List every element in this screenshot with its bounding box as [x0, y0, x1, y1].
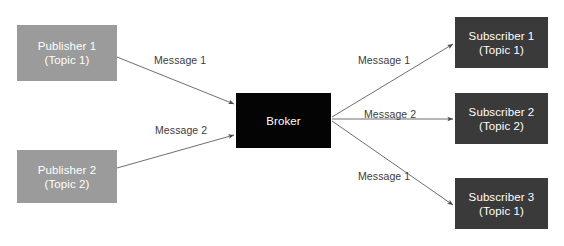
edge-label-publisher1-broker: Message 1	[154, 54, 206, 66]
node-subscriber-2-title: Subscriber 2	[469, 105, 535, 119]
node-subscriber-1-topic: (Topic 1)	[479, 43, 524, 57]
node-publisher-2-topic: (Topic 2)	[45, 177, 90, 191]
node-subscriber-1-title: Subscriber 1	[469, 29, 535, 43]
node-publisher-1-topic: (Topic 1)	[45, 53, 90, 67]
node-publisher-1[interactable]: Publisher 1 (Topic 1)	[17, 25, 117, 81]
node-subscriber-3-title: Subscriber 3	[469, 190, 535, 204]
diagram-canvas: Publisher 1 (Topic 1) Publisher 2 (Topic…	[0, 0, 564, 246]
edge-label-broker-subscriber1: Message 1	[358, 54, 410, 66]
edge-label-broker-subscriber3: Message 1	[358, 170, 410, 182]
node-subscriber-2-topic: (Topic 2)	[479, 119, 524, 133]
edge-label-broker-subscriber2: Message 2	[364, 108, 416, 120]
node-publisher-1-title: Publisher 1	[38, 39, 97, 53]
node-publisher-2-title: Publisher 2	[38, 163, 97, 177]
node-subscriber-3-topic: (Topic 1)	[479, 204, 524, 218]
node-publisher-2[interactable]: Publisher 2 (Topic 2)	[17, 150, 117, 203]
node-broker[interactable]: Broker	[236, 93, 331, 148]
node-subscriber-3[interactable]: Subscriber 3 (Topic 1)	[455, 178, 548, 229]
node-broker-title: Broker	[266, 114, 300, 128]
node-subscriber-2[interactable]: Subscriber 2 (Topic 2)	[455, 93, 548, 144]
edge-broker-to-subscriber3	[332, 121, 453, 205]
node-subscriber-1[interactable]: Subscriber 1 (Topic 1)	[455, 17, 548, 68]
edge-label-publisher2-broker: Message 2	[155, 124, 207, 136]
edge-publisher2-to-broker	[117, 135, 234, 168]
